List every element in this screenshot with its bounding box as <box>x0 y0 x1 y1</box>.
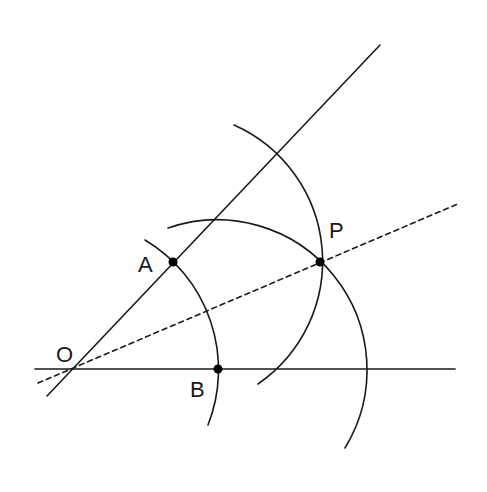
point-p <box>316 258 325 267</box>
point-a <box>169 258 178 267</box>
point-b <box>214 365 223 374</box>
arc-center-a <box>234 125 323 384</box>
diagram-canvas: O A B P <box>0 0 487 492</box>
label-o: O <box>56 342 73 367</box>
label-b: B <box>190 377 205 402</box>
label-p: P <box>329 218 344 243</box>
bisector-op <box>38 203 460 383</box>
arc-center-b <box>168 220 367 448</box>
label-a: A <box>138 252 153 277</box>
